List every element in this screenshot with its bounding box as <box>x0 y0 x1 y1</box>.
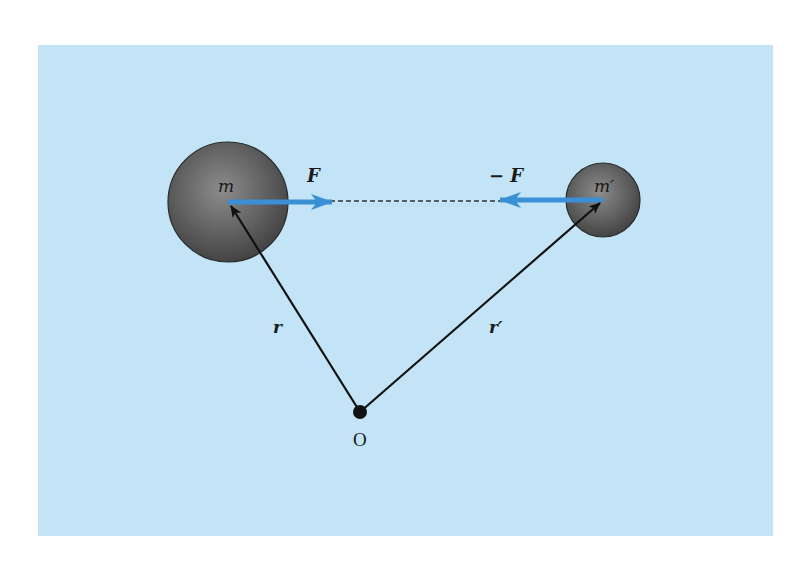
origin-point <box>353 405 367 419</box>
label-F: F <box>306 165 321 186</box>
label-r: r <box>273 317 283 337</box>
diagram-figure: m m′ F − F r r′ O <box>0 0 805 581</box>
label-m-prime: m′ <box>594 176 614 196</box>
diagram-panel <box>38 45 773 536</box>
label-origin-O: O <box>353 429 367 450</box>
label-r-prime: r′ <box>489 317 503 337</box>
label-m: m <box>218 176 234 196</box>
label-minus-F: − F <box>489 165 524 186</box>
